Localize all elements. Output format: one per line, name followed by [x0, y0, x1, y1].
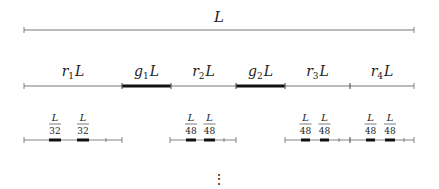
fraction-numerator: L [386, 112, 394, 123]
second-level-row: L32L32L48L48L48L48L48L48 [24, 112, 414, 143]
fraction-numerator: L [301, 112, 309, 123]
interval-label: L [213, 8, 224, 26]
subinterval-group: L32L32 [24, 112, 122, 143]
fraction-denominator: 32 [77, 126, 88, 136]
fraction-numerator: L [187, 112, 195, 123]
subinterval-group: L48L48 [285, 112, 350, 143]
continuation-dots: ⋮ [212, 171, 226, 187]
subinterval-group: L48L48 [170, 112, 236, 143]
full-interval-row: L [24, 8, 414, 33]
fraction-denominator: 48 [365, 126, 377, 136]
segment-label: r4L [371, 63, 394, 81]
segment-label: r1L [62, 63, 85, 81]
fraction-denominator: 48 [185, 126, 197, 136]
subinterval-group: L48L48 [350, 112, 414, 143]
fraction-numerator: L [51, 112, 59, 123]
fraction-denominator: 48 [384, 126, 396, 136]
first-level-row: r1Lg1Lr2Lg2Lr3Lr4L [24, 63, 414, 89]
fraction-numerator: L [205, 112, 213, 123]
fraction-denominator: 48 [204, 126, 216, 136]
fraction-numerator: L [366, 112, 374, 123]
fraction-denominator: 48 [319, 126, 331, 136]
fraction-denominator: 48 [300, 126, 312, 136]
segment-label: r2L [192, 63, 215, 81]
fraction-numerator: L [320, 112, 328, 123]
segment-label: g1L [134, 63, 159, 81]
segment-label: r3L [306, 63, 329, 81]
fraction-denominator: 32 [49, 126, 60, 136]
segment-label: g2L [248, 63, 273, 81]
cantor-construction-diagram: L r1Lg1Lr2Lg2Lr3Lr4L L32L32L48L48L48L48L… [0, 0, 439, 189]
fraction-numerator: L [79, 112, 87, 123]
